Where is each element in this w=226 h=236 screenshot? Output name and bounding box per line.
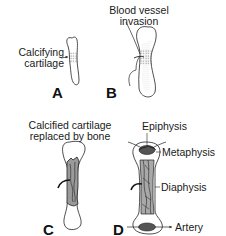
epiphysis-label: Epiphysis <box>142 121 187 132</box>
artery-label: Artery <box>175 222 203 233</box>
label-line: invasion <box>100 16 178 27</box>
blood-vessel-invasion-label: Blood vessel invasion <box>100 5 178 27</box>
diaphysis-label: Diaphysis <box>161 182 207 193</box>
stage-b-label: B <box>106 84 117 101</box>
label-line: replaced by bone <box>20 131 120 142</box>
stage-b-bone-icon <box>126 22 156 97</box>
calcified-cartilage-label: Calcified cartilage replaced by bone <box>20 120 120 142</box>
calcifying-cartilage-label: Calcifying cartilage <box>14 47 64 69</box>
ossification-diagram: Calcifying cartilage A Blood vessel inva… <box>0 0 226 236</box>
label-line: cartilage <box>14 58 64 69</box>
diagram-drawing <box>0 0 226 236</box>
stage-c-label: C <box>43 221 54 236</box>
metaphysis-label: Metaphysis <box>162 147 215 158</box>
stage-d-label: D <box>113 221 124 236</box>
stage-c-bone-icon <box>58 141 85 229</box>
stage-a-label: A <box>52 84 63 101</box>
